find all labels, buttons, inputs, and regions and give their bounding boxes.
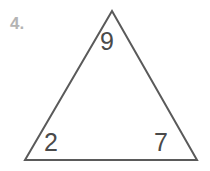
angle-label-bottom-left: 2 bbox=[44, 130, 58, 155]
triangle-figure: 4. 9 2 7 bbox=[0, 0, 210, 171]
angle-label-bottom-right: 7 bbox=[154, 130, 168, 155]
angle-label-top: 9 bbox=[100, 29, 114, 54]
triangle-shape bbox=[0, 0, 210, 171]
